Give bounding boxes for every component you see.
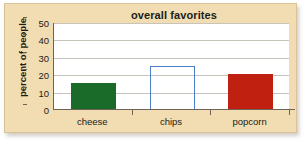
y-axis-ticks: 01020304050: [27, 23, 49, 110]
bar-popcorn: [228, 74, 273, 109]
y-tick-mark: [23, 104, 27, 105]
bar-chips: [150, 66, 195, 110]
y-tick-label: 30: [27, 52, 49, 63]
x-tick-label-popcorn: popcorn: [232, 116, 266, 127]
x-tick-label-chips: chips: [160, 116, 182, 127]
y-tick-label: 40: [27, 35, 49, 46]
y-tick-mark: [23, 17, 27, 18]
x-tick-mark: [289, 110, 290, 115]
y-tick-label: 20: [27, 70, 49, 81]
y-axis-label: percent of people: [17, 12, 28, 104]
x-axis-line: [54, 109, 289, 111]
x-tick-label-cheese: cheese: [77, 116, 108, 127]
gridline: [54, 23, 289, 24]
bar-cheese: [71, 83, 116, 109]
gridline: [54, 58, 289, 59]
x-tick-mark: [132, 110, 133, 115]
chart-figure: overall favorites percent of people 0102…: [4, 3, 297, 133]
y-tick-mark: [23, 34, 27, 35]
y-tick-mark: [23, 69, 27, 70]
y-tick-label: 10: [27, 87, 49, 98]
y-tick-label: 0: [27, 105, 49, 116]
y-tick-mark: [23, 87, 27, 88]
gridline: [54, 40, 289, 41]
plot-wrapper: 01020304050 cheesechipspopcorn: [53, 23, 289, 110]
y-tick-label: 50: [27, 18, 49, 29]
y-tick-mark: [23, 52, 27, 53]
x-tick-mark: [210, 110, 211, 115]
plot-area: [53, 23, 289, 110]
chart-title: overall favorites: [55, 9, 293, 21]
